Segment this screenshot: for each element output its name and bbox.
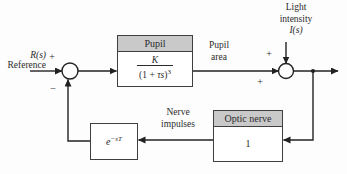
pupil-numerator: K <box>150 55 160 65</box>
sum1-plus-sign: + <box>46 52 58 62</box>
sum2-plus-left-sign: + <box>254 77 266 87</box>
optic-nerve-block-title: Optic nerve <box>214 111 282 127</box>
light-intensity-label: Light intensity I(s) <box>269 2 323 37</box>
sum1-minus-sign: − <box>47 84 59 94</box>
pupil-block-title: Pupil <box>118 36 192 52</box>
summing-junction-1 <box>62 63 78 79</box>
optic-nerve-gain: 1 <box>214 127 282 160</box>
optic-nerve-block: Optic nerve 1 <box>213 110 283 162</box>
pupil-area-label: Pupil area <box>195 40 243 63</box>
summing-junction-2 <box>279 64 294 79</box>
delay-block: e−sT <box>90 123 138 160</box>
branch-to-optic-wire <box>284 71 314 140</box>
nerve-impulses-label: Nerve impulses <box>151 107 205 130</box>
light-signal-label: I(s) <box>269 25 323 37</box>
block-diagram: R(s) Reference + − Pupil K (1 + τs)3 Pup… <box>0 0 347 174</box>
branch-point-dot <box>311 69 315 73</box>
delay-to-sum1-wire <box>68 80 90 142</box>
delay-transfer-function: e−sT <box>91 124 137 159</box>
pupil-transfer-function: K (1 + τs)3 <box>118 52 192 85</box>
sum2-plus-top-sign: + <box>263 49 275 59</box>
reference-caption-label: Reference <box>0 60 46 72</box>
pupil-denominator: (1 + τs)3 <box>137 65 173 81</box>
pupil-block: Pupil K (1 + τs)3 <box>117 35 193 87</box>
